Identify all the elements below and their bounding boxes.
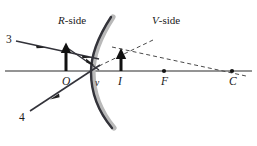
incident-ray-3	[16, 41, 99, 70]
r-side-letter: R	[58, 14, 65, 26]
v-side-letter: V	[152, 14, 159, 26]
image-label: I	[118, 76, 122, 88]
center-point-dot	[230, 69, 234, 73]
object-arrow	[61, 43, 71, 72]
image-arrow	[116, 48, 126, 71]
r-side-suffix: -side	[65, 14, 86, 26]
v-side-suffix: -side	[159, 14, 180, 26]
v-side-label: V-side	[152, 15, 180, 26]
focus-point-dot	[162, 69, 166, 73]
r-side-label: R-side	[58, 15, 86, 26]
ray-3-label: 3	[6, 34, 12, 46]
incident-ray-4	[30, 65, 100, 111]
diagram-canvas	[0, 0, 257, 146]
vertex-label: v	[95, 79, 99, 89]
focus-label: F	[161, 76, 168, 88]
object-label: O	[62, 76, 70, 88]
object-arrowhead	[61, 43, 71, 54]
virtual-ray-extension-to-center	[112, 47, 246, 76]
virtual-ray-extension-upper	[99, 40, 153, 66]
center-label: C	[229, 76, 237, 88]
optics-ray-diagram: R-side V-side O v I F C 3 4	[0, 0, 257, 146]
ray-4-label: 4	[19, 112, 25, 124]
spherical-mirror	[91, 17, 114, 128]
